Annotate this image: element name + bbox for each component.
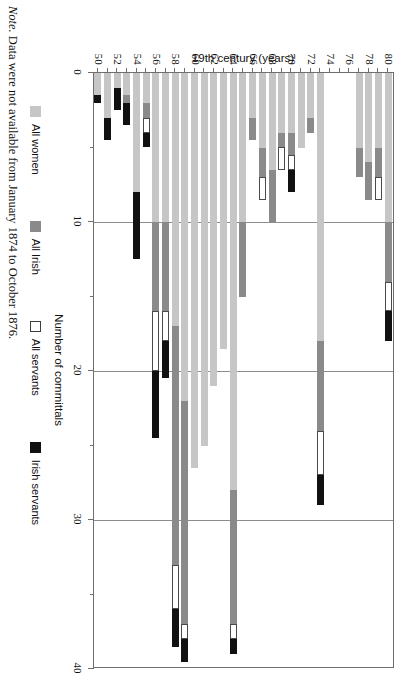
bar-segment	[143, 118, 150, 133]
category-label-66: 66	[247, 54, 258, 65]
bar-segment	[375, 73, 382, 148]
bar-segment	[172, 609, 179, 646]
value-minor-tick-15	[90, 296, 94, 297]
bar-segment	[114, 88, 121, 110]
bar-segment	[288, 170, 295, 192]
bar-row	[94, 73, 101, 103]
legend-label: All servants	[30, 339, 42, 396]
category-label-62: 62	[208, 54, 219, 65]
bar-segment	[375, 177, 382, 199]
bar-row	[356, 73, 363, 177]
bar-row	[220, 73, 227, 349]
category-label-50: 50	[92, 54, 103, 65]
rotated-figure-wrapper: 19th century (years)50525456586062646668…	[0, 0, 420, 700]
bar-segment	[104, 118, 111, 140]
bar-segment	[162, 73, 169, 222]
bar-row	[210, 73, 217, 386]
bar-row	[133, 73, 140, 259]
bar-row	[317, 73, 324, 505]
bar-segment	[317, 431, 324, 476]
legend-label: Irish servants	[30, 460, 42, 525]
bar-segment	[133, 192, 140, 259]
category-tick-75	[339, 68, 340, 73]
bar-segment	[181, 73, 188, 401]
value-minor-tick-35	[90, 594, 94, 595]
bar-segment	[172, 73, 179, 326]
bar-row	[249, 73, 256, 140]
bar-segment	[162, 222, 169, 311]
bar-row	[307, 73, 314, 133]
bar-segment	[114, 73, 121, 88]
bar-segment	[230, 624, 237, 639]
legend-label: All Irish	[30, 239, 42, 275]
bar-segment	[307, 118, 314, 133]
bar-row	[259, 73, 266, 200]
bar-segment	[259, 177, 266, 199]
bar-segment	[317, 341, 324, 430]
bar-segment	[269, 73, 276, 170]
bar-segment	[278, 73, 285, 133]
category-label-52: 52	[112, 54, 123, 65]
category-label-64: 64	[228, 54, 239, 65]
legend-swatch-icon	[31, 221, 42, 232]
bar-row	[240, 73, 247, 297]
bar-segment	[162, 311, 169, 341]
bar-segment	[230, 490, 237, 624]
bar-row	[298, 73, 305, 148]
bar-segment	[143, 73, 150, 103]
note-prefix: Note.	[6, 6, 20, 33]
category-label-58: 58	[170, 54, 181, 65]
bar-segment	[181, 639, 188, 661]
bar-segment	[356, 73, 363, 148]
bar-row	[385, 73, 392, 341]
bar-segment	[152, 371, 159, 438]
bar-segment	[365, 73, 372, 162]
bar-segment	[278, 133, 285, 148]
bar-segment	[375, 148, 382, 178]
value-tick-label-20: 20	[72, 365, 84, 376]
bar-segment	[249, 118, 256, 140]
bar-row	[191, 73, 198, 468]
bar-row	[230, 73, 237, 654]
value-axis-title: Number of committals	[53, 72, 65, 668]
bar-segment	[123, 73, 130, 95]
bar-segment	[356, 148, 363, 178]
bar-segment	[143, 103, 150, 118]
gridline-20	[94, 371, 393, 372]
category-label-54: 54	[131, 54, 142, 65]
bar-row	[114, 73, 121, 110]
bar-segment	[317, 73, 324, 341]
chart-figure: 19th century (years)50525456586062646668…	[0, 0, 420, 700]
bar-segment	[172, 565, 179, 610]
bar-segment	[172, 326, 179, 564]
bar-segment	[307, 73, 314, 118]
gridline-30	[94, 520, 393, 521]
chart-legend: All womenAll IrishAll servantsIrish serv…	[30, 72, 42, 668]
value-tick-label-30: 30	[72, 514, 84, 525]
category-tick-74	[329, 68, 330, 73]
bar-segment	[162, 341, 169, 378]
bar-segment	[317, 475, 324, 505]
bar-segment	[152, 222, 159, 311]
bar-row	[172, 73, 179, 647]
bar-segment	[143, 133, 150, 148]
bar-segment	[152, 311, 159, 371]
legend-swatch-icon	[31, 321, 42, 332]
bar-segment	[385, 222, 392, 282]
bar-segment	[259, 73, 266, 148]
bar-segment	[278, 147, 285, 169]
bar-row	[201, 73, 208, 446]
bar-segment	[259, 148, 266, 178]
plot-area: 19th century (years)50525456586062646668…	[94, 72, 394, 668]
bar-row	[143, 73, 150, 147]
value-tick-40	[88, 668, 94, 669]
bar-segment	[240, 73, 247, 222]
bar-row	[365, 73, 372, 200]
bar-segment	[385, 282, 392, 312]
bar-segment	[298, 73, 305, 148]
bar-segment	[385, 311, 392, 341]
bar-row	[181, 73, 188, 662]
figure-note: Note. Data were not available from Janua…	[5, 6, 20, 696]
bar-segment	[104, 73, 111, 118]
value-minor-tick-5	[90, 147, 94, 148]
